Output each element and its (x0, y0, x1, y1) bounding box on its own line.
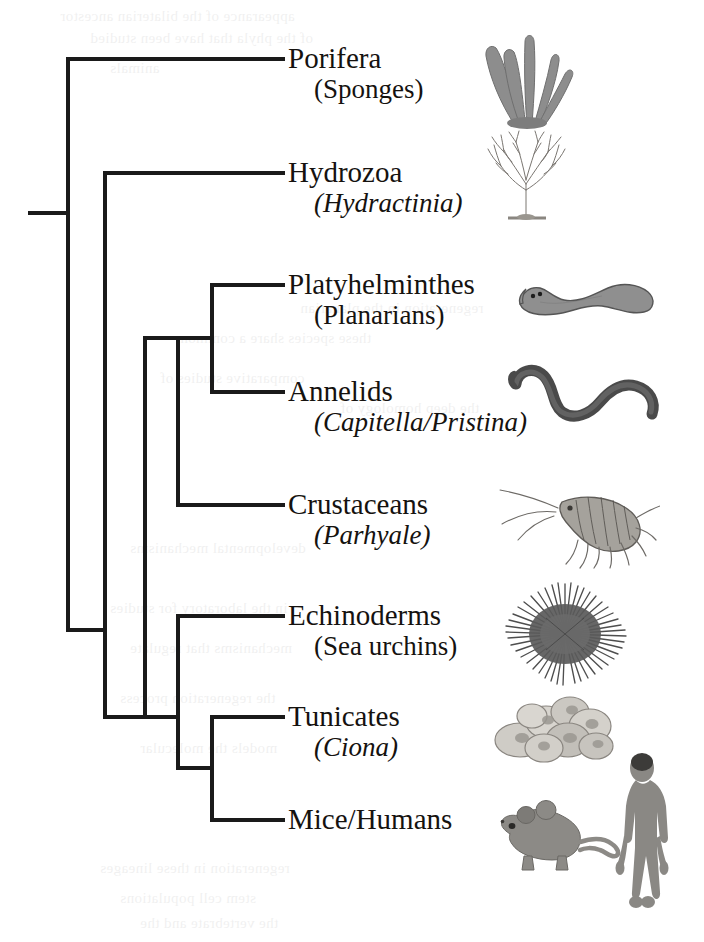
figure-canvas: appearance of the bilaterian ancestorof … (0, 0, 704, 942)
taxon-subtitle-echinoderms: (Sea urchins) (288, 631, 457, 662)
annelid-worm-icon (500, 358, 665, 434)
taxon-name-tunicates: Tunicates (288, 700, 400, 732)
amphipod-icon (484, 478, 660, 570)
taxon-name-echinoderms: Echinoderms (288, 599, 457, 631)
taxon-subtitle-platyhelminthes: (Planarians) (288, 300, 475, 331)
taxon-label-platyhelminthes: Platyhelminthes (Planarians) (288, 268, 475, 331)
planarian-icon (510, 268, 660, 330)
taxon-subtitle-tunicates: (Ciona) (288, 732, 400, 763)
taxon-name-hydrozoa: Hydrozoa (288, 156, 462, 188)
human-icon (602, 752, 678, 930)
taxon-subtitle-hydrozoa: (Hydractinia) (288, 188, 462, 219)
taxon-label-hydrozoa: Hydrozoa (Hydractinia) (288, 156, 462, 219)
taxon-label-mice-humans: Mice/Humans (288, 803, 452, 835)
taxon-label-porifera: Porifera (Sponges) (288, 42, 424, 105)
taxon-name-platyhelminthes: Platyhelminthes (288, 268, 475, 300)
taxon-name-mice-humans: Mice/Humans (288, 803, 452, 835)
taxon-label-tunicates: Tunicates (Ciona) (288, 700, 400, 763)
taxon-subtitle-annelids: (Capitella/Pristina) (288, 407, 527, 438)
taxon-label-echinoderms: Echinoderms (Sea urchins) (288, 599, 457, 662)
taxon-name-annelids: Annelids (288, 375, 527, 407)
taxon-label-annelids: Annelids (Capitella/Pristina) (288, 375, 527, 438)
taxon-label-crustaceans: Crustaceans (Parhyale) (288, 488, 430, 551)
sponge-icon (470, 22, 580, 130)
taxon-name-porifera: Porifera (288, 42, 424, 74)
sea-urchin-icon (500, 580, 630, 688)
hydroid-colony-icon (468, 128, 580, 220)
taxon-subtitle-porifera: (Sponges) (288, 74, 424, 105)
taxon-subtitle-crustaceans: (Parhyale) (288, 520, 430, 551)
taxon-name-crustaceans: Crustaceans (288, 488, 430, 520)
